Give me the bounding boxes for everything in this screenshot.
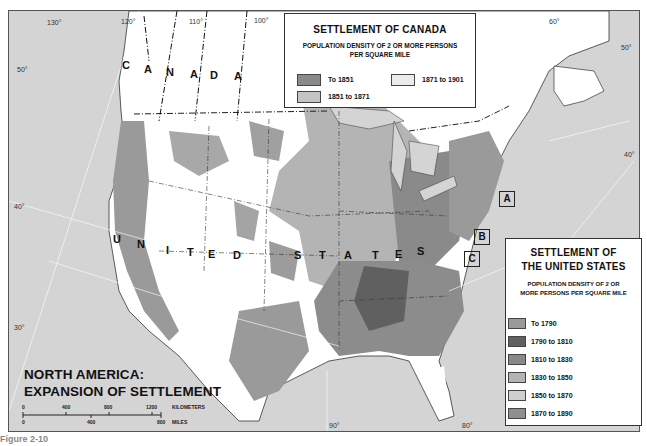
latitude-label: 50°: [621, 44, 632, 51]
us-label-letter: T: [319, 249, 326, 261]
longitude-label: 90°: [329, 422, 340, 429]
legend-label: 1810 to 1830: [531, 356, 573, 363]
us-label-letter: S: [417, 245, 424, 257]
map-title-line: NORTH AMERICA:: [24, 366, 221, 383]
map-title-line: EXPANSION OF SETTLEMENT: [24, 383, 221, 400]
legend-swatch-1851-1871: [297, 91, 321, 103]
us-legend: SETTLEMENT OF THE UNITED STATES POPULATI…: [505, 238, 642, 426]
us-label-letter: A: [344, 249, 352, 261]
us-label-letter: E: [208, 248, 215, 260]
us-label-letter: S: [294, 249, 301, 261]
latitude-label: 50°: [17, 66, 28, 73]
legend-swatch-to-1851: [297, 74, 321, 86]
latitude-label: 30°: [14, 324, 25, 331]
figure-caption: Figure 2-10: [0, 434, 48, 444]
legend-label: 1830 to 1850: [531, 374, 573, 381]
canada-label-letter: D: [210, 69, 218, 81]
map-title: NORTH AMERICA: EXPANSION OF SETTLEMENT: [24, 366, 221, 400]
legend-label: 1871 to 1901: [422, 76, 464, 83]
longitude-label: 80°: [462, 422, 473, 429]
scale-mile-tick: 400: [87, 419, 95, 425]
scale-km-label: KILOMETERS: [172, 404, 205, 410]
legend-label: 1850 to 1870: [531, 392, 573, 399]
legend-swatch-1850-1870: [508, 390, 526, 401]
canada-legend: SETTLEMENT OF CANADA POPULATION DENSITY …: [284, 13, 476, 108]
scale-km-tick: 0: [22, 404, 25, 410]
legend-label: 1851 to 1871: [328, 93, 370, 100]
longitude-label: 120°: [121, 18, 135, 25]
longitude-label: 100°: [254, 17, 268, 24]
scale-mile-tick: 800: [157, 419, 165, 425]
legend-label: 1870 to 1890: [531, 410, 573, 417]
us-label-letter: E: [395, 248, 402, 260]
legend-swatch-1871-1901: [391, 74, 415, 86]
newfoundland: [554, 66, 604, 106]
us-label-letter: D: [233, 249, 241, 261]
us-legend-title: SETTLEMENT OF: [506, 246, 641, 260]
legend-swatch-1810-1830: [508, 354, 526, 365]
canada-label-letter: C: [122, 59, 130, 71]
canada-label-letter: N: [166, 66, 174, 78]
us-legend-subtitle: MORE PERSONS PER SQUARE MILE: [506, 289, 641, 298]
us-label-letter: T: [372, 249, 379, 261]
canada-legend-subtitle: PER SQUARE MILE: [285, 50, 475, 59]
canada-legend-title: SETTLEMENT OF CANADA: [285, 24, 475, 35]
latitude-label: 40°: [624, 151, 635, 158]
legend-label: To 1851: [328, 76, 354, 83]
inset-box-a: A: [499, 191, 515, 207]
legend-swatch-to-1790: [508, 318, 526, 329]
canada-label-letter: A: [234, 70, 242, 82]
longitude-label: 130°: [47, 19, 61, 26]
inset-box-c: C: [464, 251, 480, 267]
us-label-letter: T: [187, 246, 194, 258]
inset-box-b: B: [474, 229, 490, 245]
us-label-letter: N: [137, 238, 145, 250]
legend-swatch-1790-1810: [508, 336, 526, 347]
longitude-label: 110°: [189, 18, 203, 25]
canada-legend-subtitle: POPULATION DENSITY OF 2 OR MORE PERSONS: [285, 41, 475, 50]
scale-km-tick: 800: [104, 404, 112, 410]
canada-label-letter: A: [190, 68, 198, 80]
legend-swatch-1870-1890: [508, 408, 526, 419]
scale-mile-tick: 0: [22, 419, 25, 425]
legend-label: To 1790: [531, 320, 557, 327]
canada-label-letter: A: [144, 63, 152, 75]
longitude-label: 60°: [549, 18, 560, 25]
scale-km-tick: 1200: [146, 404, 157, 410]
legend-swatch-1830-1850: [508, 372, 526, 383]
us-label-letter: U: [113, 233, 121, 245]
us-legend-title: THE UNITED STATES: [506, 260, 641, 274]
latitude-label: 40°: [14, 203, 25, 210]
scale-km-tick: 400: [62, 404, 70, 410]
us-label-letter: I: [166, 244, 169, 256]
us-legend-subtitle: POPULATION DENSITY OF 2 OR: [506, 280, 641, 289]
scale-mile-label: MILES: [172, 419, 187, 425]
legend-label: 1790 to 1810: [531, 338, 573, 345]
